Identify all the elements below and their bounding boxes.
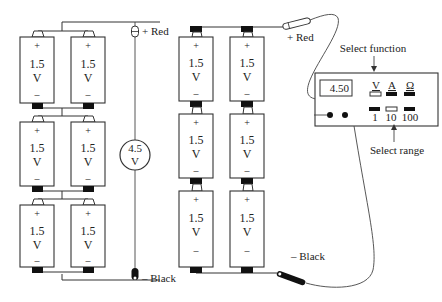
cell-plus: + [193, 194, 199, 205]
cell-unit: V [33, 238, 42, 252]
right-black-probe[interactable]: – Black [276, 100, 374, 287]
function-v-label: V [372, 79, 380, 91]
range-100-label: 100 [402, 111, 419, 123]
voltmeter: 4.5 V [120, 140, 150, 170]
cell-plus: + [193, 40, 199, 51]
cell-plus: + [193, 117, 199, 128]
red-input-jack[interactable] [327, 112, 333, 118]
cell-unit: V [84, 155, 93, 169]
left-circuit: + 1.5 V – + 1.5 V – + 1.5 V – [20, 22, 176, 284]
cell-unit: V [192, 147, 201, 161]
right-cell-3: + 1.5 V – [179, 114, 213, 178]
range-1-label: 1 [372, 111, 378, 123]
cell-unit: V [84, 71, 93, 85]
battery-multimeter-diagram: + 1.5 V – + 1.5 V – + 1.5 V – [0, 0, 442, 302]
cell-minus: – [85, 255, 92, 266]
cell-unit: V [243, 70, 252, 84]
right-cell-5: + 1.5 V – [179, 191, 213, 267]
cell-plus: + [85, 208, 91, 219]
cell-unit: V [192, 225, 201, 239]
cell-unit: V [192, 70, 201, 84]
cell-unit: V [243, 225, 252, 239]
left-cell-1: + 1.5 V – [20, 31, 54, 109]
black-probe-label: – Black [290, 250, 325, 262]
left-cell-5: + 1.5 V – [20, 199, 54, 273]
multimeter: Select function 4.50 V A Ω 1 10 100 Sele… [314, 42, 438, 156]
left-cell-6: + 1.5 V – [71, 199, 105, 273]
cell-voltage: 1.5 [189, 211, 204, 225]
cell-voltage: 1.5 [81, 141, 96, 155]
cell-voltage: 1.5 [81, 57, 96, 71]
cell-voltage: 1.5 [30, 141, 45, 155]
select-function-label: Select function [340, 42, 407, 54]
right-circuit: + 1.5 V – + 1.5 V – + 1.5 V – + 1.5 [179, 14, 374, 287]
cell-plus: + [244, 194, 250, 205]
cell-unit: V [243, 147, 252, 161]
red-probe-label: + Red [287, 31, 314, 43]
cell-plus: + [85, 40, 91, 51]
cell-minus: – [85, 89, 92, 100]
cell-unit: V [33, 155, 42, 169]
cell-minus: – [193, 88, 200, 99]
arrow-down-icon [371, 66, 377, 72]
right-cell-6: + 1.5 V – [230, 191, 264, 267]
cell-minus: – [34, 255, 41, 266]
cell-voltage: 1.5 [240, 133, 255, 147]
cell-voltage: 1.5 [189, 56, 204, 70]
cell-plus: + [34, 40, 40, 51]
cell-minus: – [244, 165, 251, 176]
display-reading: 4.50 [330, 82, 350, 94]
cell-plus: + [244, 40, 250, 51]
function-ohm-label: Ω [406, 79, 414, 91]
function-a-button[interactable] [386, 92, 397, 96]
right-cell-4: + 1.5 V – [230, 114, 264, 178]
left-joint-2 [38, 191, 88, 199]
cell-minus: – [34, 173, 41, 184]
cell-minus: – [34, 89, 41, 100]
red-probe-label: + Red [142, 25, 169, 37]
left-cell-4: + 1.5 V – [71, 116, 105, 192]
select-range-label: Select range [370, 144, 424, 156]
cell-unit: V [33, 71, 42, 85]
cell-voltage: 1.5 [30, 224, 45, 238]
left-black-probe[interactable]: – Black [132, 268, 177, 284]
cell-minus: – [244, 88, 251, 99]
cell-plus: + [85, 125, 91, 136]
black-input-jack[interactable] [342, 112, 348, 118]
function-ohm-button[interactable] [404, 92, 415, 96]
cell-voltage: 1.5 [189, 133, 204, 147]
cell-voltage: 1.5 [30, 57, 45, 71]
cell-voltage: 1.5 [81, 224, 96, 238]
cell-plus: + [34, 208, 40, 219]
cell-minus: – [85, 173, 92, 184]
range-10-label: 10 [386, 111, 398, 123]
right-cell-1: + 1.5 V – [179, 37, 213, 101]
voltmeter-unit: V [131, 155, 139, 167]
left-cell-2: + 1.5 V – [71, 31, 105, 109]
cell-minus: – [244, 245, 251, 256]
cell-minus: – [193, 165, 200, 176]
cell-unit: V [84, 238, 93, 252]
left-cell-3: + 1.5 V – [20, 116, 54, 192]
left-red-probe[interactable]: + Red [132, 25, 170, 37]
cell-plus: + [34, 125, 40, 136]
voltmeter-value: 4.5 [128, 142, 142, 154]
cell-voltage: 1.5 [240, 211, 255, 225]
cell-plus: + [244, 117, 250, 128]
right-cell-2: + 1.5 V – [230, 37, 264, 101]
cell-minus: – [193, 245, 200, 256]
cell-voltage: 1.5 [240, 56, 255, 70]
left-joint-1 [38, 108, 88, 116]
black-probe-label: – Black [141, 272, 176, 284]
function-a-label: A [388, 79, 396, 91]
function-v-button[interactable] [370, 92, 381, 96]
